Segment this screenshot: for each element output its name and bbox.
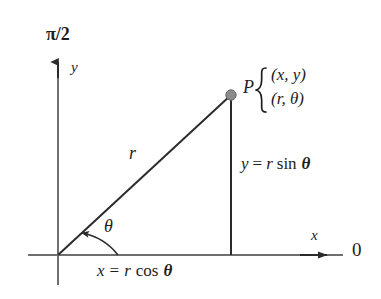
horizontal-leg-equation: x=rcosθ bbox=[97, 262, 172, 279]
vertical-leg-rhs-angle: θ bbox=[302, 154, 311, 173]
horizontal-leg-lhs: x bbox=[97, 261, 105, 280]
vertical-leg-rhs-function: sin bbox=[277, 154, 297, 173]
vertical-leg-equation: y=rsinθ bbox=[241, 155, 310, 172]
point-p-marker bbox=[226, 90, 236, 100]
vertical-leg-rhs-variable: r bbox=[266, 154, 273, 173]
coordinate-brace bbox=[256, 68, 266, 112]
angle-label: θ bbox=[104, 217, 113, 235]
horizontal-leg-rhs-angle: θ bbox=[163, 261, 172, 280]
horizontal-leg-rhs-variable: r bbox=[124, 261, 131, 280]
diagram-canvas bbox=[0, 0, 381, 299]
y-axis-label: y bbox=[71, 60, 78, 75]
vertical-leg-lhs: y bbox=[241, 154, 249, 173]
coordinate-pairs-group: (x, y) (r, θ) bbox=[271, 66, 306, 108]
polar-coordinates-figure: π/2 y x 0 r θ P (x, y) (r, θ) y=rsinθ x=… bbox=[0, 0, 381, 299]
angle-arc bbox=[82, 233, 118, 255]
vertical-leg-equals: = bbox=[253, 154, 263, 173]
horizontal-leg-equals: = bbox=[110, 261, 120, 280]
radius-label: r bbox=[129, 144, 136, 162]
radius-segment bbox=[58, 95, 231, 255]
x-axis-label: x bbox=[311, 228, 318, 243]
polar-top-axis-label: π/2 bbox=[46, 25, 70, 43]
rectangular-coordinates-label: (x, y) bbox=[271, 66, 306, 84]
point-p-label: P bbox=[243, 78, 254, 96]
horizontal-leg-rhs-function: cos bbox=[136, 261, 159, 280]
polar-coordinates-label: (r, θ) bbox=[271, 90, 306, 108]
polar-axis-zero-label: 0 bbox=[352, 240, 362, 259]
